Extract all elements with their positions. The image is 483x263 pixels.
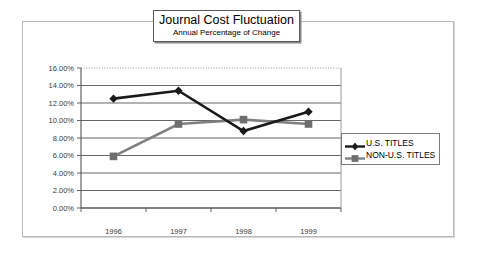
y-tick-label: 2.00% xyxy=(53,186,75,195)
data-point-marker xyxy=(110,153,118,161)
x-tick-label: 1999 xyxy=(300,227,317,236)
y-axis-tick-labels: 0.00%2.00%4.00%6.00%8.00%10.00%12.00%14.… xyxy=(49,64,75,213)
data-point-marker xyxy=(305,120,313,128)
gridlines-group xyxy=(81,68,341,208)
chart-canvas: 0.00%2.00%4.00%6.00%8.00%10.00%12.00%14.… xyxy=(23,22,453,236)
chart-plot-frame: 0.00%2.00%4.00%6.00%8.00%10.00%12.00%14.… xyxy=(22,21,454,237)
data-point-marker xyxy=(175,120,183,128)
chart-legend: U.S. TITLES NON-U.S. TITLES xyxy=(341,133,440,165)
legend-marker-square-icon xyxy=(344,150,366,161)
y-tick-label: 12.00% xyxy=(49,99,75,108)
x-tick-label: 1997 xyxy=(170,227,187,236)
y-tick-label: 6.00% xyxy=(53,151,75,160)
data-point-marker xyxy=(240,116,248,124)
data-series-group xyxy=(109,87,312,161)
y-tick-label: 8.00% xyxy=(53,134,75,143)
series-line xyxy=(114,91,309,131)
chart-title: Journal Cost Fluctuation xyxy=(159,13,294,27)
data-point-marker xyxy=(304,108,312,116)
data-point-marker xyxy=(109,94,117,102)
x-axis-tick-labels: 1996199719981999 xyxy=(105,227,317,236)
legend-marker-diamond-icon xyxy=(344,138,366,149)
y-tick-label: 10.00% xyxy=(49,116,75,125)
y-tick-label: 14.00% xyxy=(49,81,75,90)
legend-item-us-titles: U.S. TITLES xyxy=(344,137,435,149)
legend-item-non-us-titles: NON-U.S. TITLES xyxy=(344,149,435,161)
chart-figure: 0.00%2.00%4.00%6.00%8.00%10.00%12.00%14.… xyxy=(0,0,483,263)
legend-label-non-us-titles: NON-U.S. TITLES xyxy=(366,150,435,161)
y-tick-label: 4.00% xyxy=(53,169,75,178)
x-tick-label: 1998 xyxy=(235,227,252,236)
x-tick-label: 1996 xyxy=(105,227,122,236)
chart-title-box: Journal Cost Fluctuation Annual Percenta… xyxy=(153,10,300,42)
chart-subtitle: Annual Percentage of Change xyxy=(159,28,294,38)
y-tick-label: 16.00% xyxy=(49,64,75,73)
y-tick-label: 0.00% xyxy=(53,204,75,213)
legend-label-us-titles: U.S. TITLES xyxy=(366,138,414,149)
